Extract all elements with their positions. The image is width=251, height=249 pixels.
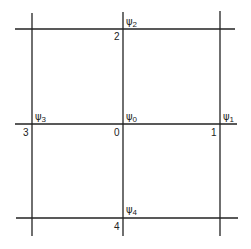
node-number-1: 1 bbox=[211, 127, 217, 138]
node-number-0: 0 bbox=[114, 127, 120, 138]
node-number-4: 4 bbox=[114, 221, 120, 232]
stencil-diagram: ψ2 ψ3 ψ0 ψ1 ψ4 2 3 0 1 4 bbox=[0, 0, 251, 249]
psi-label-2: ψ2 bbox=[126, 16, 138, 29]
psi-label-4: ψ4 bbox=[126, 204, 138, 217]
node-number-2: 2 bbox=[114, 31, 120, 42]
psi-label-1: ψ1 bbox=[223, 111, 235, 124]
psi-label-0: ψ0 bbox=[126, 111, 138, 124]
node-number-3: 3 bbox=[23, 127, 29, 138]
psi-label-3: ψ3 bbox=[35, 111, 47, 124]
